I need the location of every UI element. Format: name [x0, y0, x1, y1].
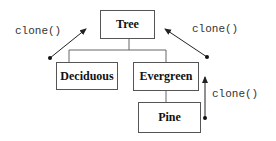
deciduous-node: Deciduous	[56, 62, 118, 90]
evergreen-node: Evergreen	[133, 62, 199, 91]
left-clone-label: clone()	[15, 25, 61, 37]
pine-node: Pine	[138, 102, 201, 133]
pine-clone-label: clone()	[212, 88, 258, 100]
tree-node-label: Tree	[116, 17, 139, 32]
pine-node-label: Pine	[158, 110, 181, 125]
tree-node: Tree	[100, 10, 155, 39]
right-clone-label: clone()	[192, 23, 238, 35]
deciduous-node-label: Deciduous	[60, 69, 113, 84]
class-hierarchy-diagram: Tree Deciduous Evergreen Pine clone() cl…	[0, 0, 276, 141]
evergreen-node-label: Evergreen	[139, 69, 192, 84]
